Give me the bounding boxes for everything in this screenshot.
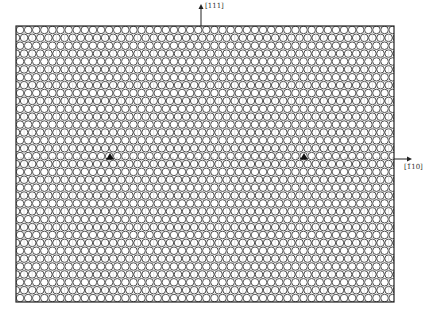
lattice-figure: [111] [1̄10]: [0, 0, 439, 318]
axis-label-horizontal: [1̄10]: [404, 163, 423, 171]
arrowhead-up-icon: [199, 4, 204, 9]
lattice-diagram: [0, 0, 439, 318]
lattice-atoms: [12, 26, 404, 302]
arrowhead-right-icon: [407, 157, 412, 162]
axis-label-vertical: [111]: [205, 2, 224, 10]
